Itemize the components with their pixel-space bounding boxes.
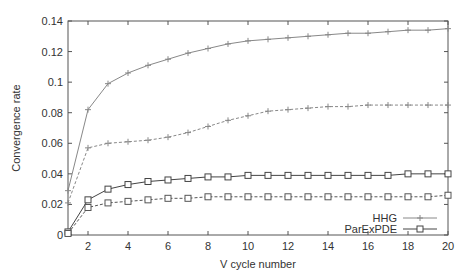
y-tick-label: 0.1 [48, 76, 63, 88]
x-tick-label: 14 [322, 240, 334, 252]
y-axis-label: Convergence rate [10, 84, 22, 171]
y-tick-label: 0.12 [42, 46, 63, 58]
y-tick-label: 0.06 [42, 137, 63, 149]
series-hhg [65, 26, 451, 194]
x-tick-label: 10 [242, 240, 254, 252]
x-tick-label: 16 [362, 240, 374, 252]
x-tick-label: 18 [402, 240, 414, 252]
y-tick-label: 0 [57, 229, 63, 241]
x-tick-label: 12 [282, 240, 294, 252]
legend: HHG ParExPDE [344, 212, 437, 235]
convergence-chart: 00.020.040.060.080.10.120.14246810121416… [0, 0, 472, 275]
y-tick-label: 0.14 [42, 15, 63, 27]
series-hhg-dashed [65, 102, 451, 206]
legend-swatch-hhg [403, 215, 437, 221]
series-layer [65, 26, 451, 237]
x-tick-label: 4 [125, 240, 131, 252]
x-axis-label: V cycle number [220, 258, 296, 270]
y-tick-label: 0.02 [42, 198, 63, 210]
x-tick-label: 6 [165, 240, 171, 252]
y-tick-label: 0.04 [42, 168, 63, 180]
y-tick-label: 0.08 [42, 107, 63, 119]
x-tick-label: 20 [442, 240, 454, 252]
x-tick-label: 8 [205, 240, 211, 252]
x-tick-label: 2 [85, 240, 91, 252]
legend-label-parexpde: ParExPDE [344, 223, 397, 235]
